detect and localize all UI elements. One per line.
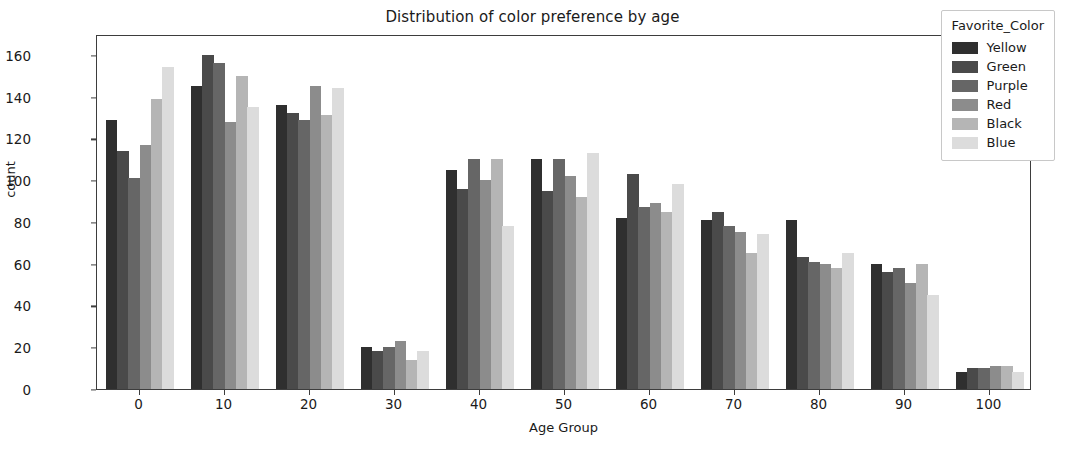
bar[interactable]: [446, 170, 458, 389]
bar-group: [701, 36, 769, 389]
bar[interactable]: [491, 159, 503, 389]
legend-item-blue[interactable]: Blue: [952, 133, 1044, 152]
bar[interactable]: [723, 226, 735, 389]
bar[interactable]: [106, 120, 118, 389]
bar[interactable]: [638, 207, 650, 389]
x-tick-mark: [734, 390, 735, 395]
legend-label: Purple: [987, 78, 1028, 93]
x-tick-mark: [819, 390, 820, 395]
legend-swatch-icon: [952, 99, 978, 111]
bar[interactable]: [661, 212, 673, 390]
bar[interactable]: [128, 178, 140, 389]
bar[interactable]: [616, 218, 628, 389]
legend-item-green[interactable]: Green: [952, 57, 1044, 76]
bar[interactable]: [457, 189, 469, 389]
bar[interactable]: [287, 113, 299, 389]
bar[interactable]: [565, 176, 577, 389]
bar[interactable]: [990, 366, 1002, 389]
bar[interactable]: [332, 88, 344, 389]
bar[interactable]: [576, 197, 588, 389]
bar[interactable]: [797, 257, 809, 389]
bar[interactable]: [650, 203, 662, 389]
bar[interactable]: [893, 268, 905, 389]
bar[interactable]: [871, 264, 883, 389]
figure-canvas: Distribution of color preference by age …: [0, 0, 1065, 458]
legend-swatch-icon: [952, 61, 978, 73]
bar[interactable]: [225, 122, 237, 389]
y-tick-label: 140: [0, 90, 31, 106]
legend-item-black[interactable]: Black: [952, 114, 1044, 133]
bar[interactable]: [882, 272, 894, 389]
bar[interactable]: [236, 76, 248, 389]
bar[interactable]: [417, 351, 429, 389]
bar[interactable]: [531, 159, 543, 389]
bar[interactable]: [480, 180, 492, 389]
bar[interactable]: [672, 184, 684, 389]
bar[interactable]: [967, 368, 979, 389]
y-tick-label: 60: [0, 257, 31, 273]
bar[interactable]: [820, 264, 832, 389]
bar[interactable]: [916, 264, 928, 389]
bar[interactable]: [213, 63, 225, 389]
bars-container: [97, 36, 1030, 389]
bar[interactable]: [701, 220, 713, 389]
bar[interactable]: [712, 212, 724, 390]
bar[interactable]: [191, 86, 203, 389]
bar-group: [361, 36, 429, 389]
legend-item-yellow[interactable]: Yellow: [952, 38, 1044, 57]
bar-group: [446, 36, 514, 389]
bar[interactable]: [542, 191, 554, 389]
bar[interactable]: [627, 174, 639, 389]
bar[interactable]: [1001, 366, 1013, 389]
x-tick-label: 60: [619, 396, 679, 412]
bar[interactable]: [310, 86, 322, 389]
bar[interactable]: [140, 145, 152, 389]
legend-title: Favorite_Color: [952, 18, 1044, 33]
legend-label: Green: [987, 59, 1026, 74]
legend-label: Black: [987, 116, 1022, 131]
bar[interactable]: [276, 105, 288, 389]
x-tick-label: 40: [449, 396, 509, 412]
bar[interactable]: [842, 253, 854, 389]
bar[interactable]: [587, 153, 599, 389]
bar[interactable]: [786, 220, 798, 389]
bar[interactable]: [905, 283, 917, 390]
x-tick-label: 0: [109, 396, 169, 412]
bar[interactable]: [298, 120, 310, 389]
x-tick-mark: [649, 390, 650, 395]
chart-title: Distribution of color preference by age: [0, 8, 1065, 26]
bar[interactable]: [831, 268, 843, 389]
bar[interactable]: [117, 151, 129, 389]
bar[interactable]: [927, 295, 939, 389]
bar[interactable]: [735, 232, 747, 389]
bar[interactable]: [372, 351, 384, 389]
bar[interactable]: [162, 67, 174, 389]
y-tick-label: 40: [0, 298, 31, 314]
bar[interactable]: [406, 360, 418, 389]
bar[interactable]: [151, 99, 163, 389]
bar-group: [106, 36, 174, 389]
bar[interactable]: [247, 107, 259, 389]
x-tick-mark: [309, 390, 310, 395]
bar[interactable]: [383, 347, 395, 389]
x-tick-mark: [224, 390, 225, 395]
bar[interactable]: [1012, 372, 1024, 389]
y-tick-label: 80: [0, 215, 31, 231]
bar[interactable]: [553, 159, 565, 389]
bar[interactable]: [978, 368, 990, 389]
x-tick-label: 50: [534, 396, 594, 412]
y-tick-label: 0: [0, 382, 31, 398]
bar[interactable]: [956, 372, 968, 389]
y-tick-label: 100: [0, 173, 31, 189]
legend-item-red[interactable]: Red: [952, 95, 1044, 114]
bar[interactable]: [808, 262, 820, 389]
bar[interactable]: [746, 253, 758, 389]
bar[interactable]: [502, 226, 514, 389]
bar[interactable]: [202, 55, 214, 389]
bar[interactable]: [468, 159, 480, 389]
bar[interactable]: [321, 115, 333, 389]
legend-item-purple[interactable]: Purple: [952, 76, 1044, 95]
bar[interactable]: [361, 347, 373, 389]
bar[interactable]: [395, 341, 407, 389]
bar[interactable]: [757, 234, 769, 389]
